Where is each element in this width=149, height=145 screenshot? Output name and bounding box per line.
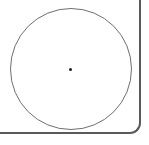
center-point-marker: center point bbox=[69, 68, 72, 71]
diagram-canvas: circle center point bbox=[0, 0, 149, 145]
center-point-label: center point bbox=[69, 68, 70, 69]
circle-label: circle bbox=[11, 9, 12, 10]
